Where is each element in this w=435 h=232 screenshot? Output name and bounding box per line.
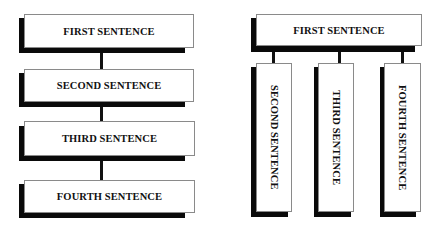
left-box-fourth-sentence: FOURTH SENTENCE: [24, 180, 195, 213]
right-box-fourth-sentence: FOURTH SENTENCE: [384, 63, 421, 212]
connector-root-second: [272, 50, 275, 64]
left-box-first-sentence: FIRST SENTENCE: [24, 14, 194, 48]
box-label: FOURTH SENTENCE: [397, 85, 408, 190]
connector-root-fourth: [401, 50, 404, 64]
right-box-first-sentence: FIRST SENTENCE: [256, 14, 422, 46]
box-label: FIRST SENTENCE: [293, 25, 384, 36]
connector-root-third: [338, 50, 341, 64]
box-label: SECOND SENTENCE: [269, 85, 280, 190]
left-box-third-sentence: THIRD SENTENCE: [24, 121, 195, 156]
right-box-second-sentence: SECOND SENTENCE: [256, 63, 292, 212]
left-box-second-sentence: SECOND SENTENCE: [24, 69, 194, 102]
box-label: THIRD SENTENCE: [62, 133, 157, 144]
box-label: FIRST SENTENCE: [63, 26, 154, 37]
box-label: SECOND SENTENCE: [57, 80, 162, 91]
right-box-third-sentence: THIRD SENTENCE: [318, 63, 354, 212]
box-label: THIRD SENTENCE: [331, 90, 342, 185]
box-label: FOURTH SENTENCE: [57, 191, 162, 202]
